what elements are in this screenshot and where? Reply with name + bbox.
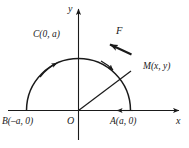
force-vector-F bbox=[110, 45, 132, 55]
x-axis-label: x bbox=[176, 116, 180, 126]
arc-direction-arrow-right bbox=[101, 61, 113, 70]
point-label-B: B(–a, 0) bbox=[2, 117, 33, 127]
point-label-C: C(0, a) bbox=[33, 30, 60, 40]
y-axis-label: y bbox=[68, 4, 72, 14]
arc-direction-arrow-left bbox=[40, 63, 57, 77]
force-vector-label: F bbox=[116, 26, 122, 37]
point-label-M: M(x, y) bbox=[143, 62, 170, 72]
radius-OM bbox=[79, 71, 132, 111]
point-label-A: A(a, 0) bbox=[110, 117, 136, 127]
origin-label: O bbox=[67, 116, 74, 126]
geometry-figure: B(–a, 0) C(0, a) A(a, 0) M(x, y) O F x y bbox=[0, 0, 189, 148]
